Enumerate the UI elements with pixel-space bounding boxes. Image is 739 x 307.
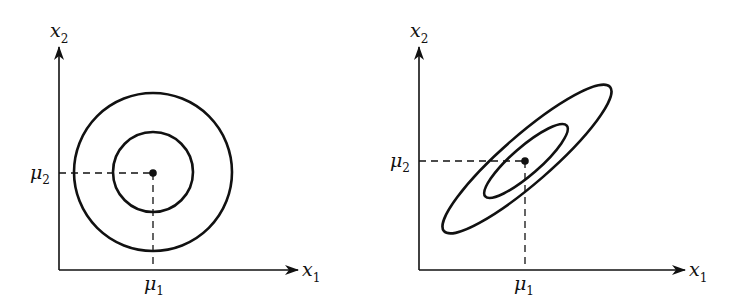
bivariate-normal-contours-figure: x2 x1 μ2 μ1 x2 x1 μ2 μ1 xyxy=(0,0,739,307)
left-panel: x2 x1 μ2 μ1 xyxy=(30,19,320,298)
mean-point xyxy=(521,157,529,165)
axis-label-x1: x1 xyxy=(689,258,707,285)
mean-label-mu2: μ2 xyxy=(390,149,410,175)
right-panel: x2 x1 μ2 μ1 xyxy=(390,19,707,298)
mean-label-mu2: μ2 xyxy=(30,161,50,187)
axis-label-x1: x1 xyxy=(302,258,320,285)
axis-label-x2: x2 xyxy=(410,19,428,46)
mean-label-mu1: μ1 xyxy=(514,272,534,298)
axis-label-x2: x2 xyxy=(50,19,68,46)
mean-point xyxy=(149,169,157,177)
mean-label-mu1: μ1 xyxy=(144,272,164,298)
